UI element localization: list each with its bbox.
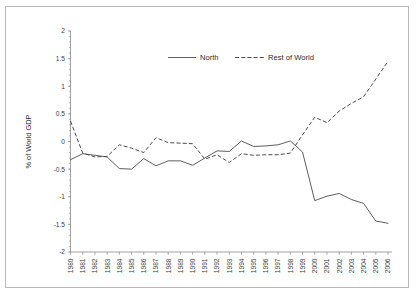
y-tick-label: -1.5 [54,221,66,228]
y-tick-label: -0.5 [54,166,66,173]
x-tick-label: 2005 [372,258,379,273]
y-tick-label: 0.5 [56,110,65,117]
y-tick-label: 1.5 [56,55,65,62]
y-tick-label: 2 [61,27,65,34]
legend-label-rest-of-world: Rest of World [268,53,314,62]
x-tick-label: 1986 [140,258,147,273]
x-tick-label: 2004 [360,258,367,273]
x-tick-label: 1997 [274,258,281,273]
y-tick-label: -2 [59,248,65,255]
x-tick-label: 1993 [226,258,233,273]
x-tick-label: 2006 [384,258,391,273]
series-line-north [71,141,389,223]
y-tick-label: 0 [61,138,65,145]
x-tick-label: 1992 [213,258,220,273]
x-tick-label: 1996 [262,258,269,273]
x-tick-label: 1991 [201,258,208,273]
x-tick-label: 1998 [287,258,294,273]
x-tick-label: 1981 [79,258,86,273]
x-tick-label: 2002 [336,258,343,273]
chart-figure: 21.510.50-0.5-1-1.5-21980198119821983198… [0,0,416,296]
x-tick-label: 1982 [91,258,98,273]
x-tick-label: 1990 [189,258,196,273]
series-line-rest-of-world [71,61,389,162]
x-tick-label: 1983 [104,258,111,273]
x-tick-label: 1999 [299,258,306,273]
y-axis-title: % of World GDP [24,114,33,168]
chart-svg: 21.510.50-0.5-1-1.5-21980198119821983198… [0,0,416,296]
legend-label-north: North [200,53,219,62]
x-tick-label: 1985 [128,258,135,273]
x-tick-label: 1995 [250,258,257,273]
x-tick-label: 1989 [177,258,184,273]
x-tick-label: 2003 [348,258,355,273]
x-tick-label: 2000 [311,258,318,273]
x-tick-label: 1987 [152,258,159,273]
x-tick-label: 1994 [238,258,245,273]
x-tick-label: 1988 [165,258,172,273]
x-tick-label: 1980 [67,258,74,273]
x-tick-label: 1984 [116,258,123,273]
x-tick-label: 2001 [323,258,330,273]
chart-plot-area: 21.510.50-0.5-1-1.5-21980198119821983198… [0,0,416,296]
y-tick-label: -1 [59,193,65,200]
y-tick-label: 1 [61,83,65,90]
